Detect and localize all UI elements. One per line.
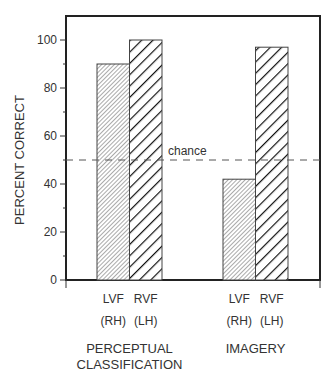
group-label: IMAGERY [226,341,286,356]
bar-field-label: RVF [260,292,284,306]
bar-rvf [256,47,289,280]
bar-field-label: LVF [229,292,250,306]
chance-label: chance [168,144,207,158]
group-label: CLASSIFICATION [77,357,183,372]
bar-chart: 020406080100 chance LVF(RH)RVF(LH)PERCEP… [0,0,334,376]
bar-lvf [97,64,130,280]
bar-lvf [223,179,256,280]
bar-field-label: RVF [134,292,158,306]
y-tick-label: 100 [37,33,57,47]
y-tick-label: 80 [44,81,58,95]
y-tick-label: 60 [44,129,58,143]
bars [97,40,288,280]
x-axis-labels: LVF(RH)RVF(LH)PERCEPTUALCLASSIFICATIONLV… [77,292,286,372]
bar-hemisphere-label: (LH) [134,314,157,328]
bar-hemisphere-label: (LH) [260,314,283,328]
bar-hemisphere-label: (RH) [227,314,252,328]
bar-hemisphere-label: (RH) [101,314,126,328]
y-tick-label: 0 [50,273,57,287]
y-axis-label: PERCENT CORRECT [12,95,27,225]
group-label: PERCEPTUAL [86,341,173,356]
y-tick-label: 20 [44,225,58,239]
y-tick-label: 40 [44,177,58,191]
bar-field-label: LVF [103,292,124,306]
